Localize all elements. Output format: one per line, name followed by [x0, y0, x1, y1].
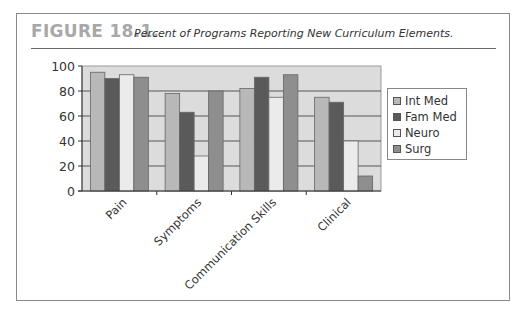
bar-neuro	[194, 156, 209, 191]
y-tick-label: 60	[59, 109, 75, 124]
legend-item: Int Med	[393, 93, 466, 109]
bar-surg	[209, 91, 224, 191]
legend-swatch	[393, 145, 401, 153]
legend-label: Surg	[405, 142, 431, 156]
y-tick-label: 100	[51, 59, 75, 74]
bar-fam-med	[180, 112, 195, 191]
legend-swatch	[393, 129, 401, 137]
x-tick-label: Pain	[103, 195, 130, 222]
legend-label: Int Med	[405, 94, 448, 108]
bar-neuro	[269, 97, 284, 191]
y-tick-label: 0	[67, 184, 75, 199]
bar-neuro	[344, 141, 359, 191]
bar-int-med	[90, 72, 105, 191]
bar-surg	[283, 75, 298, 191]
bar-int-med	[165, 94, 180, 192]
y-tick-label: 40	[59, 134, 75, 149]
y-tick-label: 20	[59, 159, 75, 174]
legend-item: Neuro	[393, 125, 466, 141]
chart-legend: Int MedFam MedNeuroSurg	[387, 88, 467, 160]
legend-item: Fam Med	[393, 109, 466, 125]
legend-swatch	[393, 113, 401, 121]
legend-swatch	[393, 97, 401, 105]
legend-item: Surg	[393, 141, 466, 157]
legend-label: Fam Med	[405, 110, 457, 124]
legend-label: Neuro	[405, 126, 439, 140]
bar-neuro	[119, 75, 134, 191]
bar-surg	[358, 176, 373, 191]
x-tick-label: Clinical	[315, 195, 354, 234]
x-tick-label: Symptoms	[151, 195, 204, 248]
bar-fam-med	[254, 77, 269, 191]
bar-surg	[134, 77, 149, 191]
bar-int-med	[240, 89, 255, 192]
bar-fam-med	[105, 79, 120, 192]
bar-fam-med	[329, 102, 344, 191]
y-tick-label: 80	[59, 84, 75, 99]
bar-int-med	[315, 97, 330, 191]
